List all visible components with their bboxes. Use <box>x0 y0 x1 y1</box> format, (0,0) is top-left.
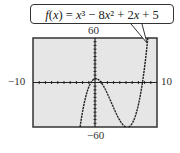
function-label-text: f(x) = x³ − 8x² + 2x + 5 <box>45 8 159 22</box>
function-label: f(x) = x³ − 8x² + 2x + 5 <box>30 4 174 24</box>
